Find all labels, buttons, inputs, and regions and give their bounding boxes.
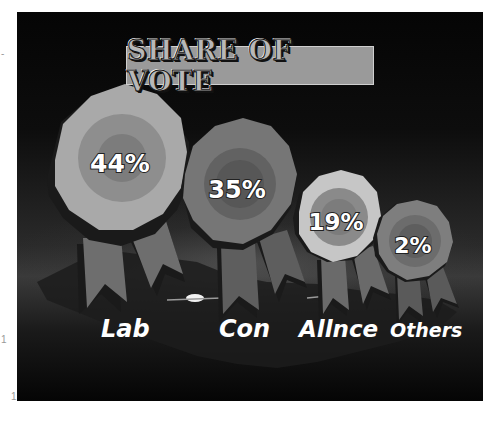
party-label-lab: Lab bbox=[101, 315, 150, 343]
value-label-allnce: 19% bbox=[308, 209, 363, 235]
chart-title: SHARE OF VOTE bbox=[127, 35, 373, 97]
value-label-others: 2% bbox=[394, 233, 431, 258]
party-label-allnce: Allnce bbox=[297, 316, 378, 342]
party-label-con: Con bbox=[219, 315, 270, 343]
map-highlight bbox=[186, 294, 204, 302]
party-label-others: Others bbox=[390, 319, 462, 341]
chart-panel: 44% 35% bbox=[17, 12, 483, 401]
edge-mark: 1 bbox=[1, 334, 7, 345]
chart-title-box: SHARE OF VOTE bbox=[126, 46, 374, 85]
edge-mark: - bbox=[1, 48, 4, 59]
edge-mark: 1 bbox=[11, 391, 17, 402]
value-label-lab: 44% bbox=[90, 149, 150, 178]
value-label-con: 35% bbox=[208, 176, 265, 204]
